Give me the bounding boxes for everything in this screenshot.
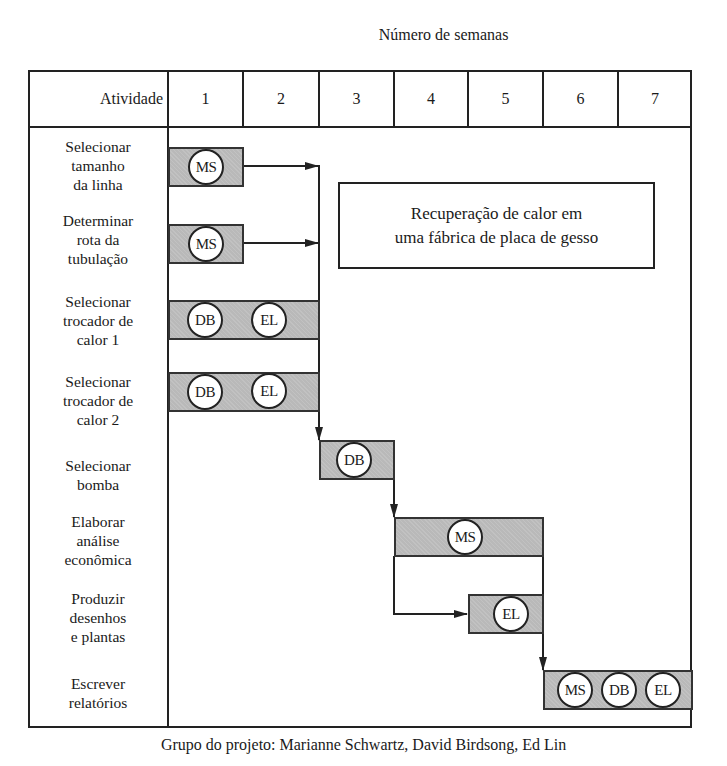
task-bar: DB EL	[168, 372, 320, 412]
person-badge: MS	[557, 672, 593, 708]
task-bar: MS	[394, 517, 544, 557]
note-line: uma fábrica de placa de gesso	[340, 226, 653, 250]
person-badge: DB	[187, 302, 223, 338]
person-badge: DB	[336, 442, 372, 478]
project-team-caption: Grupo do projeto: Marianne Schwartz, Dav…	[0, 736, 727, 754]
note-line: Recuperação de calor em	[340, 202, 653, 226]
project-note: Recuperação de calor em uma fábrica de p…	[338, 182, 655, 269]
person-badge: EL	[251, 373, 287, 409]
task-bar: DB EL	[168, 300, 320, 340]
person-badge: DB	[601, 672, 637, 708]
task-bar: MS DB EL	[543, 670, 693, 710]
person-badge: MS	[188, 149, 224, 185]
task-bar: EL	[468, 594, 544, 634]
person-badge: EL	[251, 302, 287, 338]
person-badge: EL	[493, 596, 529, 632]
task-bar: MS	[168, 147, 244, 187]
task-bar: MS	[168, 224, 244, 264]
person-badge: DB	[187, 374, 223, 410]
person-badge: EL	[645, 672, 681, 708]
task-bar: DB	[319, 440, 395, 480]
person-badge: MS	[447, 519, 483, 555]
dependency-arrows	[0, 0, 727, 766]
person-badge: MS	[188, 226, 224, 262]
